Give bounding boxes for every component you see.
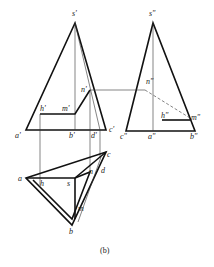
label-a-front: a'	[15, 131, 21, 140]
figure-caption: (b)	[100, 246, 110, 255]
label-s-top: s	[67, 179, 70, 188]
top-view: a h s c d n m b	[18, 150, 111, 236]
projection-drawing: s' a' b' c' d' h' m' n' s" c" a" b" h" m…	[0, 0, 214, 267]
label-h-front: h'	[40, 104, 46, 113]
side-view: s" c" a" b" h" m" n"	[90, 9, 201, 141]
front-view: s' a' b' c' d' h' m' n'	[15, 9, 115, 140]
label-n-top: n	[89, 167, 93, 176]
label-n-side: n"	[146, 77, 154, 86]
label-m-side: m"	[191, 113, 201, 122]
label-n-front: n'	[81, 85, 87, 94]
label-s-front: s'	[72, 9, 77, 18]
label-a-top: a	[18, 174, 22, 183]
label-d-top: d	[101, 166, 106, 175]
label-m-top: m	[78, 204, 84, 213]
front-edge-sd	[75, 23, 100, 130]
label-a-side: a"	[148, 132, 156, 141]
label-b-side: b"	[190, 132, 198, 141]
label-b-top: b	[69, 227, 73, 236]
label-c-front: c'	[109, 125, 115, 134]
label-c-top: c	[107, 150, 111, 159]
label-d-front: d'	[91, 131, 97, 140]
label-m-front: m'	[62, 104, 70, 113]
label-h-top: h	[40, 179, 44, 188]
label-b-front: b'	[69, 131, 75, 140]
label-h-side: h"	[161, 111, 169, 120]
label-c-side: c"	[120, 132, 128, 141]
label-s-side: s"	[149, 9, 156, 18]
